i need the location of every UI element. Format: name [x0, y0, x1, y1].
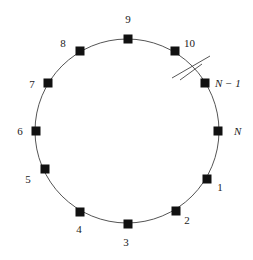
node-square — [76, 47, 85, 56]
node-label: 9 — [125, 13, 131, 25]
break-mark — [172, 56, 210, 80]
node-label: 5 — [25, 173, 31, 185]
node-label: 2 — [184, 214, 190, 226]
node-label: 10 — [184, 37, 196, 49]
nodes-group — [32, 35, 223, 229]
node-label: N − 1 — [214, 77, 241, 89]
node-square — [76, 208, 85, 217]
node-label: 7 — [29, 78, 35, 90]
ring-diagram-svg: 910N − 1N12345678 — [0, 0, 253, 260]
node-square — [201, 79, 210, 88]
ring-diagram: 910N − 1N12345678 — [0, 0, 253, 260]
node-square — [124, 220, 133, 229]
labels-group: 910N − 1N12345678 — [17, 13, 242, 248]
node-square — [32, 127, 41, 136]
node-label: N — [233, 125, 242, 137]
node-label: 3 — [123, 236, 129, 248]
node-label: 8 — [60, 37, 66, 49]
node-square — [214, 127, 223, 136]
node-square — [203, 175, 212, 184]
node-label: 1 — [217, 181, 223, 193]
node-square — [171, 47, 180, 56]
node-label: 4 — [76, 223, 82, 235]
node-square — [44, 79, 53, 88]
node-label: 6 — [17, 125, 23, 137]
node-square — [172, 207, 181, 216]
node-square — [41, 165, 50, 174]
node-square — [124, 35, 133, 44]
